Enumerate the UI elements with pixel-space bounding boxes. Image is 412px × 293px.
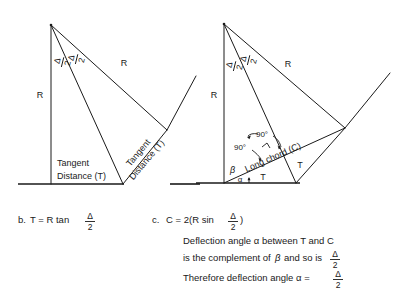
figure-container: R R Δ 2 Δ 2 Tangent Distance (T) Tangent bbox=[0, 0, 412, 293]
right-alpha-label: α bbox=[238, 175, 243, 184]
caption-c-line3-frac-numerator: Δ bbox=[332, 249, 338, 259]
left-half-delta-2-numerator: Δ bbox=[66, 54, 77, 62]
right-angle-tick bbox=[262, 143, 270, 148]
left-tangent-distance-label-line2: Distance (T) bbox=[57, 171, 106, 181]
left-half-delta-1-numerator: Δ bbox=[52, 57, 63, 65]
left-radius-slant bbox=[51, 25, 167, 130]
right-angle-leader-arrowhead bbox=[247, 136, 251, 140]
caption-b-frac-numerator: Δ bbox=[87, 211, 93, 221]
caption-c: c. C = 2(R sin Δ 2 ) Deflection angle α … bbox=[152, 211, 343, 290]
left-tangent-distance-label-line1: Tangent bbox=[57, 158, 90, 168]
caption-b-fraction: Δ 2 bbox=[85, 211, 95, 232]
right-alpha-tick-arrowhead bbox=[248, 177, 251, 180]
right-radius-slant-label: R bbox=[285, 59, 292, 69]
right-beta-label: β bbox=[229, 165, 235, 175]
right-half-delta-2-numerator: Δ bbox=[238, 55, 249, 63]
right-diagram: R R Δ 2 Δ 2 90° 90° bbox=[196, 23, 390, 184]
right-tangent-label-left: T bbox=[260, 172, 266, 182]
caption-b-marker: b. bbox=[18, 214, 26, 225]
caption-c-formula-prefix: C = 2(R sin bbox=[166, 214, 214, 225]
right-half-delta-1-numerator: Δ bbox=[224, 61, 235, 69]
caption-b-frac-denominator: 2 bbox=[88, 222, 93, 232]
right-radius-vertical-label: R bbox=[211, 90, 218, 100]
caption-c-formula-fraction: Δ 2 bbox=[228, 211, 238, 232]
right-angle-label-1: 90° bbox=[256, 130, 268, 139]
left-forward-tangent-line bbox=[167, 76, 196, 130]
right-long-chord-text: Long chord (C) bbox=[243, 140, 302, 174]
right-angle-label-2: 90° bbox=[234, 143, 246, 152]
right-radius-slant bbox=[224, 24, 345, 128]
left-radius-slant-label: R bbox=[121, 58, 128, 68]
caption-c-marker: c. bbox=[152, 214, 159, 225]
caption-c-line3-part1: is the complement of bbox=[183, 252, 271, 263]
right-long-chord-label: Long chord (C) bbox=[243, 140, 302, 174]
right-half-delta-1-denominator: 2 bbox=[234, 64, 245, 71]
caption-b-formula: T = R tan bbox=[30, 214, 69, 225]
left-half-delta-2-denominator: 2 bbox=[76, 57, 87, 64]
left-diagram: R R Δ 2 Δ 2 Tangent Distance (T) Tangent bbox=[18, 24, 200, 184]
caption-c-line3-fraction: Δ 2 bbox=[330, 249, 340, 270]
right-forward-tangent-line bbox=[345, 73, 390, 128]
left-radius-vertical-label: R bbox=[37, 90, 44, 100]
caption-c-line2: Deflection angle α between T and C bbox=[183, 235, 334, 246]
caption-c-line4-fraction: Δ 2 bbox=[333, 269, 343, 290]
right-tangent-distance-segment bbox=[296, 128, 345, 183]
caption-c-line3-part2: and so is bbox=[284, 252, 322, 263]
caption-c-formula-frac-denominator: 2 bbox=[231, 222, 236, 232]
caption-c-formula-frac-numerator: Δ bbox=[230, 211, 236, 221]
caption-c-formula-suffix: ) bbox=[240, 214, 243, 225]
caption-b: b. T = R tan Δ 2 bbox=[18, 211, 95, 232]
caption-c-line4: Therefore deflection angle α = bbox=[183, 272, 310, 283]
diagram-svg: R R Δ 2 Δ 2 Tangent Distance (T) Tangent bbox=[0, 0, 412, 293]
left-apex-point bbox=[50, 24, 53, 27]
left-tangent-distance-rotated-label: Tangent Distance (T) bbox=[119, 131, 167, 182]
caption-c-line4-frac-denominator: 2 bbox=[336, 280, 341, 290]
right-tangent-label-right: T bbox=[297, 160, 303, 170]
caption-c-line3-beta: β bbox=[274, 252, 281, 263]
right-apex-point bbox=[223, 23, 226, 26]
right-half-delta-2-denominator: 2 bbox=[248, 58, 259, 65]
caption-c-line4-frac-numerator: Δ bbox=[335, 269, 341, 279]
